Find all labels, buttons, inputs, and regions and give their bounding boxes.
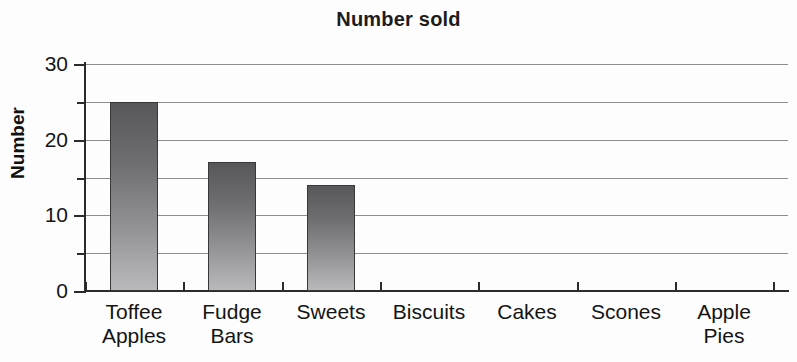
gridline [85,140,788,141]
chart-title: Number sold [0,8,797,31]
x-tick [773,282,775,291]
x-tick [577,282,579,291]
y-tick-minor [77,178,86,180]
y-tick-label: 0 [8,280,68,301]
gridline [85,215,788,216]
gridline [85,178,788,179]
x-axis-label: Apple Pies [664,300,784,347]
gridline [85,253,788,254]
y-tick-major [74,291,86,293]
x-tick [380,282,382,291]
y-tick-minor [77,253,86,255]
gridline [85,64,788,65]
x-tick [183,282,185,291]
y-tick-label: 20 [8,129,68,150]
gridline [85,102,788,103]
bar-chart: Number sold Number 0102030 Toffee Apples… [0,0,797,362]
bar [208,162,256,291]
x-tick [478,282,480,291]
y-tick-label: 30 [8,53,68,74]
x-tick [85,282,87,291]
y-tick-label: 10 [8,204,68,225]
y-tick-major [74,64,86,66]
bar [110,102,158,291]
y-tick-major [74,215,86,217]
x-axis-line [84,290,789,292]
y-tick-major [74,140,86,142]
bar [307,185,355,291]
x-tick [282,282,284,291]
y-tick-minor [77,102,86,104]
x-tick [675,282,677,291]
